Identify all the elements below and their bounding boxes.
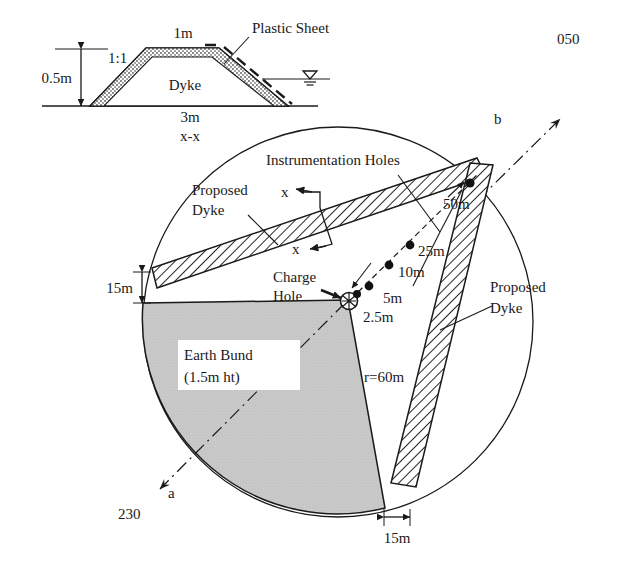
proposed-dyke-right-label-line1: Proposed (490, 279, 546, 295)
offset-bottom-label: 15m (384, 530, 411, 546)
charge-hole-label-line2: Hole (273, 288, 303, 304)
hole-dot-5m (365, 282, 374, 291)
proposed-dyke-northwest (152, 158, 486, 288)
bearing-b-label: b (494, 111, 502, 127)
bearing-a-value: 230 (118, 506, 141, 522)
bearing-b-value: 050 (557, 31, 580, 47)
dyke-body-label: Dyke (169, 77, 202, 93)
section-marker-top-label: x (281, 184, 289, 200)
bearing-a-label: a (168, 485, 175, 501)
instrumentation-holes-label: Instrumentation Holes (266, 152, 400, 168)
section-marker-bottom-label: x (292, 241, 300, 257)
radius-label: r=60m (364, 369, 404, 385)
proposed-dyke-left-label-line1: Proposed (192, 182, 248, 198)
hole-dot-2p5m (353, 290, 361, 298)
cross-section-title: x-x (180, 128, 200, 144)
base-width-label: 3m (180, 109, 200, 125)
earth-bund-label-line1: Earth Bund (184, 347, 253, 363)
earth-bund-area (142, 300, 385, 514)
proposed-dyke-left-label-line2: Dyke (192, 202, 225, 218)
height-label: 0.5m (42, 70, 73, 86)
figure-canvas: 1m 3m 0.5m 1:1 Dyke Plastic Sheet x-x (0, 0, 622, 575)
charge-hole-label-line1: Charge (273, 269, 316, 285)
hole-label-10m: 10m (398, 264, 425, 280)
offset-bottom-dimension (384, 509, 410, 526)
hole-dot-25m (406, 241, 415, 250)
hole-label-25m: 25m (418, 243, 445, 259)
earth-bund-label-line2: (1.5m ht) (184, 369, 240, 386)
plastic-sheet-label: Plastic Sheet (252, 20, 330, 36)
bearing-axis-b (478, 119, 560, 200)
proposed-dyke-east (391, 163, 493, 487)
hole-label-2p5m: 2.5m (363, 309, 394, 325)
charge-hole-leader (321, 290, 341, 298)
hole-label-50m: 50m (443, 196, 470, 212)
section-marker-top (296, 189, 320, 208)
offset-left-label: 15m (106, 280, 133, 296)
proposed-dyke-right-label-line2: Dyke (490, 300, 523, 316)
water-table-icon (303, 71, 317, 85)
hole-dot-10m (385, 261, 394, 270)
cross-section-inset: 1m 3m 0.5m 1:1 Dyke Plastic Sheet x-x (42, 20, 330, 144)
plan-view: Instrumentation Holes Proposed Dyke Prop… (106, 31, 579, 546)
site-plan-diagram: 1m 3m 0.5m 1:1 Dyke Plastic Sheet x-x (0, 0, 622, 575)
crest-width-label: 1m (173, 25, 193, 41)
slope-ratio-label: 1:1 (108, 50, 127, 66)
hole-label-5m: 5m (383, 290, 403, 306)
hole-dot-50m (465, 178, 474, 187)
